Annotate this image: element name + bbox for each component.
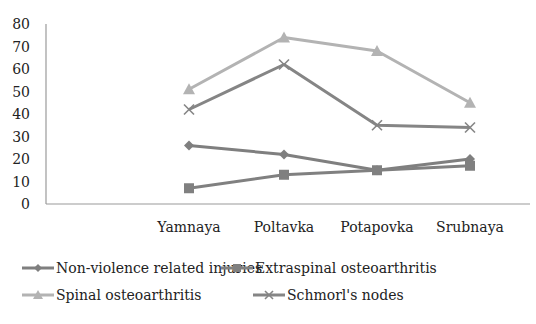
series-extraspinal-osteoarthritis bbox=[184, 161, 475, 194]
series-line bbox=[189, 166, 470, 189]
y-tick-label: 20 bbox=[12, 151, 30, 167]
y-tick-label: 80 bbox=[12, 16, 30, 32]
y-tick-label: 10 bbox=[12, 174, 30, 190]
series-spinal-osteoarthritis bbox=[183, 32, 476, 108]
x-category-label: Potapovka bbox=[340, 219, 413, 235]
series-line bbox=[189, 65, 470, 128]
square-marker-icon bbox=[233, 264, 241, 272]
x-axis-category-labels: YamnayaPoltavkaPotapovkaSrubnaya bbox=[156, 219, 504, 235]
series-schmorl-s-nodes bbox=[184, 60, 475, 133]
legend-label: Extraspinal osteoarthritis bbox=[255, 260, 437, 276]
y-axis-tick-labels: 01020304050607080 bbox=[12, 16, 30, 212]
x-category-label: Yamnaya bbox=[156, 219, 220, 235]
plot-series bbox=[183, 32, 476, 194]
square-marker-icon bbox=[279, 170, 289, 180]
x-category-label: Poltavka bbox=[254, 219, 314, 235]
triangle-marker-icon bbox=[464, 97, 476, 108]
legend-item: Spinal osteoarthritis bbox=[22, 287, 201, 303]
y-tick-label: 0 bbox=[21, 196, 30, 212]
y-tick-label: 40 bbox=[12, 106, 30, 122]
line-chart: 01020304050607080 YamnayaPoltavkaPotapov… bbox=[0, 0, 536, 324]
y-tick-label: 30 bbox=[12, 129, 30, 145]
square-marker-icon bbox=[465, 161, 475, 171]
series-non-violence-related-injuries bbox=[184, 141, 475, 176]
x-category-label: Srubnaya bbox=[436, 219, 504, 235]
y-tick-label: 60 bbox=[12, 61, 30, 77]
triangle-marker-icon bbox=[183, 83, 195, 94]
legend: Non-violence related injuriesExtraspinal… bbox=[22, 260, 437, 303]
diamond-marker-icon bbox=[279, 150, 289, 160]
legend-label: Spinal osteoarthritis bbox=[56, 287, 201, 303]
diamond-marker-icon bbox=[184, 141, 194, 151]
y-tick-label: 50 bbox=[12, 84, 30, 100]
diamond-marker-icon bbox=[34, 264, 42, 272]
y-tick-label: 70 bbox=[12, 39, 30, 55]
legend-label: Schmorl's nodes bbox=[287, 287, 404, 303]
legend-item: Schmorl's nodes bbox=[253, 287, 404, 303]
square-marker-icon bbox=[184, 183, 194, 193]
square-marker-icon bbox=[372, 165, 382, 175]
